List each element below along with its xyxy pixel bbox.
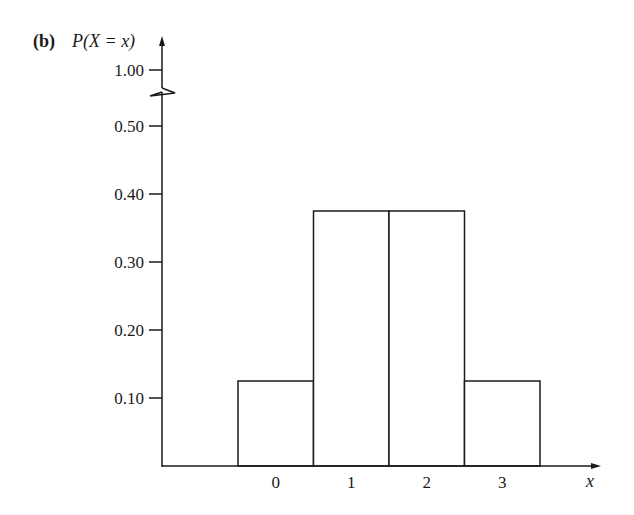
bar-1 bbox=[314, 211, 390, 466]
y-axis-title: P(X = x) bbox=[71, 31, 135, 52]
x-category-label: 2 bbox=[423, 473, 432, 492]
x-category-label: 0 bbox=[272, 473, 281, 492]
x-axis-arrow-icon bbox=[591, 463, 601, 469]
bar-0 bbox=[238, 381, 314, 466]
x-category-labels: 0123 bbox=[272, 473, 507, 492]
probability-histogram: 0.100.200.300.400.501.00 0123 (b) P(X = … bbox=[0, 0, 634, 515]
y-tick-label: 0.10 bbox=[114, 389, 144, 408]
y-ticks-group: 0.100.200.300.400.501.00 bbox=[114, 61, 162, 408]
y-tick-label: 0.50 bbox=[114, 117, 144, 136]
bar-2 bbox=[389, 211, 465, 466]
bars-group bbox=[238, 211, 540, 466]
y-tick-label: 1.00 bbox=[114, 61, 144, 80]
y-tick-label: 0.30 bbox=[114, 253, 144, 272]
x-category-label: 3 bbox=[498, 473, 507, 492]
panel-label: (b) bbox=[33, 31, 55, 52]
y-tick-label: 0.40 bbox=[114, 185, 144, 204]
y-axis-arrow-icon bbox=[159, 36, 165, 46]
x-category-label: 1 bbox=[347, 473, 356, 492]
x-axis-title: x bbox=[585, 471, 594, 491]
bar-3 bbox=[465, 381, 541, 466]
y-tick-label: 0.20 bbox=[114, 321, 144, 340]
